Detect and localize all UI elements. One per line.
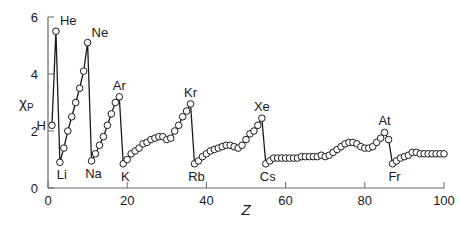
data-point [76,85,83,92]
data-point [259,115,266,122]
data-point [68,113,75,120]
element-label-na: Na [85,166,102,181]
data-point [187,101,194,108]
axes [48,17,444,188]
x-tick-label: 80 [358,193,372,208]
data-point [72,99,79,106]
element-label-cs: Cs [260,169,276,184]
y-axis-label-sub: P [27,102,34,113]
data-point [175,122,182,129]
electronegativity-chart: 0204060801000246 HHeLiNeNaArKKrRbXeCsAtF… [0,0,467,229]
element-label-fr: Fr [388,169,401,184]
x-tick-label: 100 [433,193,455,208]
element-label-ne: Ne [92,25,109,40]
data-point [116,94,123,101]
data-point [92,151,99,158]
data-point [183,108,190,115]
y-tick-label: 4 [31,67,38,82]
y-tick-label: 6 [31,10,38,25]
data-point [96,142,103,149]
element-label-at: At [378,113,391,128]
data-point [57,159,64,166]
data-point [100,133,107,140]
element-label-k: K [121,169,130,184]
x-axis-label: Z [240,201,251,218]
x-tick-label: 0 [44,193,51,208]
x-tick-label: 40 [199,193,213,208]
data-point [441,151,448,158]
data-point [104,122,111,129]
data-point [80,68,87,75]
element-label-xe: Xe [254,99,270,114]
y-axis-label: χP [19,94,34,113]
y-tick-label: 0 [31,181,38,196]
data-point [381,129,388,136]
data-markers [49,28,448,167]
element-label-h: H [37,118,46,133]
data-point [61,145,68,152]
element-label-ar: Ar [113,78,127,93]
y-axis-label-main: χ [19,94,27,111]
data-point [255,122,262,129]
element-label-he: He [60,13,77,28]
data-line [52,31,444,164]
data-point [53,28,60,35]
data-point [84,39,91,46]
data-point [88,158,95,165]
data-point [49,122,56,129]
data-point [167,135,174,142]
x-tick-label: 20 [120,193,134,208]
element-label-rb: Rb [188,169,205,184]
element-label-kr: Kr [184,85,198,100]
element-label-li: Li [57,167,67,182]
data-point [65,128,72,135]
x-tick-label: 60 [278,193,292,208]
data-polyline [52,31,444,164]
data-point [108,111,115,118]
data-point [385,136,392,143]
